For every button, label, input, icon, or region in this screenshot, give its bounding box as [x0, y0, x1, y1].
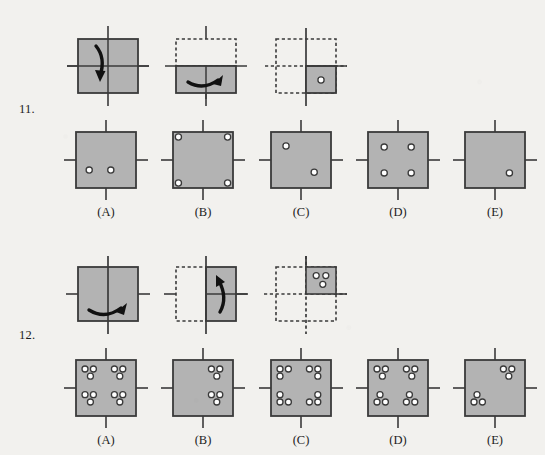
answer-option-d[interactable]: (D) — [350, 346, 446, 446]
question-12: 12. — [0, 228, 545, 455]
punched-hole — [318, 77, 324, 83]
option-label: (D) — [350, 205, 446, 220]
paper-square — [271, 132, 331, 188]
dashed-unfolded-half — [176, 267, 206, 321]
answer-option-d[interactable]: (D) — [350, 118, 446, 218]
answer-option-a[interactable]: (A) — [58, 118, 154, 218]
answer-option-a[interactable]: (A) — [58, 346, 154, 446]
fold-step-2 — [158, 250, 254, 338]
option-label: (E) — [447, 433, 543, 448]
answer-options-12: (A) — [0, 346, 545, 446]
paper-square — [76, 132, 136, 188]
option-label: (B) — [155, 433, 251, 448]
answer-option-c[interactable]: (C) — [253, 118, 349, 218]
fold-step-3 — [258, 250, 354, 338]
paper-square — [465, 132, 525, 188]
answer-option-c[interactable]: (C) — [253, 346, 349, 446]
fold-sequence-12 — [0, 250, 545, 338]
option-label: (A) — [58, 433, 154, 448]
answer-option-e[interactable]: (E) — [447, 118, 543, 218]
question-11: 11. — [0, 0, 545, 228]
paper-square — [465, 360, 525, 416]
option-label: (E) — [447, 205, 543, 220]
worksheet-page: 11. — [0, 0, 545, 455]
dashed-unfolded-half — [176, 39, 236, 66]
fold-step-1 — [60, 22, 156, 110]
option-label: (C) — [253, 205, 349, 220]
fold-step-3 — [258, 22, 354, 110]
option-label: (B) — [155, 205, 251, 220]
answer-option-b[interactable]: (B) — [155, 346, 251, 446]
option-label: (A) — [58, 205, 154, 220]
option-label: (C) — [253, 433, 349, 448]
fold-sequence-11 — [0, 22, 545, 110]
holes — [506, 170, 512, 176]
paper-square — [173, 360, 233, 416]
fold-step-2 — [158, 22, 254, 110]
answer-option-b[interactable]: (B) — [155, 118, 251, 218]
option-label: (D) — [350, 433, 446, 448]
paper-square — [368, 132, 428, 188]
answer-options-11: (A) — [0, 118, 545, 218]
paper-square — [173, 132, 233, 188]
fold-step-1 — [60, 250, 156, 338]
answer-option-e[interactable]: (E) — [447, 346, 543, 446]
paper-square — [306, 267, 336, 294]
